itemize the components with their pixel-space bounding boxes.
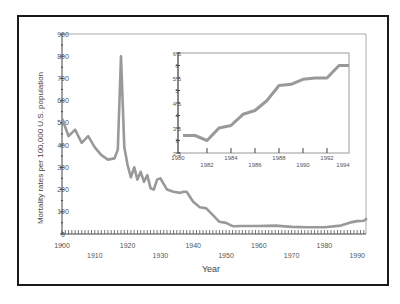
x-tick-label: 1970 [284,252,300,259]
y-tick-label: 400 [57,142,69,149]
inset-x-tick-label: 1994 [336,162,350,168]
inset-y-tick-label: 6.5 [173,51,182,57]
y-tick-label: 0 [61,231,65,238]
x-tick-label: 1990 [349,252,365,259]
inset-x-tick-label: 1982 [200,162,214,168]
y-tick-label: 600 [57,97,69,104]
inset-x-tick-label: 1992 [320,155,334,161]
inset-x-tick-label: 1980 [171,155,185,161]
y-axis-title: Mortality rates per 100,000 U.S. populat… [36,72,45,224]
x-tick-label: 1930 [153,252,169,259]
inset-y-tick-label: 3.5 [173,126,182,132]
inset-y-tick-label: 4.5 [173,101,182,107]
x-tick-label: 1910 [87,252,103,259]
y-tick-label: 300 [57,164,69,171]
inset-x-tick-label: 1986 [248,162,262,168]
x-tick-label: 1940 [185,242,201,249]
x-axis-title: Year [202,264,220,274]
y-tick-label: 800 [57,53,69,60]
inset-chart: 2.533.544.555.566.5198019821984198619881… [171,51,350,169]
y-tick-label: 100 [57,208,69,215]
x-tick-label: 1980 [317,242,333,249]
x-tick-label: 1920 [120,242,136,249]
y-tick-label: 200 [57,186,69,193]
inset-x-tick-label: 1990 [296,162,310,168]
y-tick-label: 700 [57,75,69,82]
mortality-chart: 0100200300400500600700800900190019101920… [0,0,400,304]
x-tick-label: 1900 [54,242,70,249]
inset-x-tick-label: 1988 [272,155,286,161]
inset-y-tick-label: 5.5 [173,76,182,82]
x-tick-label: 1960 [251,242,267,249]
y-tick-label: 900 [57,31,69,38]
x-tick-label: 1950 [218,252,234,259]
inset-x-tick-label: 1984 [224,155,238,161]
